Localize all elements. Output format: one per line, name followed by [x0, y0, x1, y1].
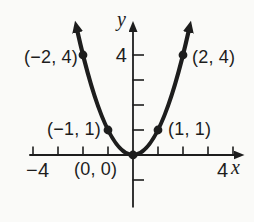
x-axis-letter: x: [231, 156, 240, 178]
point-label-1-1: (1, 1): [168, 119, 211, 139]
point-label-neg1-1: (−1, 1): [47, 119, 101, 139]
parabola-plot: [0, 0, 254, 222]
parabola-figure: y 4 (−2, 4) (2, 4) (−1, 1) (1, 1) (0, 0)…: [0, 0, 254, 222]
x-tick-label-4: 4: [217, 159, 228, 181]
point-label-0-0: (0, 0): [74, 159, 117, 179]
data-point: [154, 126, 163, 135]
point-label-neg2-4: (−2, 4): [24, 47, 78, 67]
data-point: [129, 151, 138, 160]
x-tick-label-neg4: −4: [26, 159, 49, 181]
y-tick-label-4: 4: [116, 44, 127, 66]
data-point: [104, 126, 113, 135]
point-label-2-4: (2, 4): [192, 47, 235, 67]
y-axis-letter: y: [117, 8, 126, 30]
data-point: [179, 51, 188, 60]
data-point: [79, 51, 88, 60]
